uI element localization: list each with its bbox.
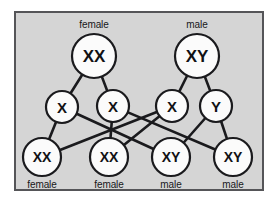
sex-label-child-4: male <box>222 179 243 190</box>
genotype-node-mother: XX <box>72 34 116 78</box>
genotype-text: X <box>57 99 67 116</box>
genotype-text: XX <box>100 149 119 165</box>
genotype-node-egg-x2: X <box>97 90 129 122</box>
genotype-text: XY <box>186 47 209 66</box>
sex-label-father: male <box>186 19 207 30</box>
genotype-node-child-4: XY <box>214 138 252 176</box>
connection-line <box>204 76 210 92</box>
diagram-stage: XXXYXXXYXXXXXYXY femalemalefemalefemalem… <box>0 0 278 207</box>
genotype-text: XY <box>224 149 243 165</box>
connection-line <box>123 115 160 145</box>
genotype-nodes: XXXYXXXYXXXXXYXY <box>23 34 252 176</box>
sex-label-mother: female <box>79 19 108 30</box>
genotype-text: X <box>108 98 118 115</box>
genotype-node-egg-x1: X <box>46 91 78 123</box>
genotype-text: XX <box>83 47 106 66</box>
genotype-node-father: XY <box>175 34 219 78</box>
genotype-node-sperm-y: Y <box>200 90 232 122</box>
connection-line <box>101 76 107 92</box>
connection-line <box>221 120 228 140</box>
genotype-node-sperm-x: X <box>156 90 188 122</box>
genotype-node-child-3: XY <box>152 138 190 176</box>
connection-line <box>179 75 188 93</box>
genotype-text: X <box>167 98 177 115</box>
genotype-node-child-1: XX <box>23 138 61 176</box>
genotype-text: Y <box>211 98 221 115</box>
inheritance-diagram: XXXYXXXYXXXXXYXY <box>0 0 278 207</box>
sex-label-child-3: male <box>160 179 181 190</box>
connection-line <box>70 74 83 95</box>
sex-label-child-1: female <box>27 179 56 190</box>
genotype-text: XY <box>162 149 181 165</box>
genotype-node-child-2: XX <box>90 138 128 176</box>
genotype-text: XX <box>33 149 52 165</box>
connection-line <box>49 121 57 140</box>
sex-label-child-2: female <box>94 179 123 190</box>
